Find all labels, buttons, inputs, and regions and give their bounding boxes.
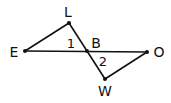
angle-1-label: 1 bbox=[67, 36, 75, 51]
point-E bbox=[23, 49, 27, 53]
point-L bbox=[67, 21, 71, 25]
angle-2-label: 2 bbox=[99, 54, 107, 69]
point-B bbox=[85, 49, 89, 53]
label-L: L bbox=[64, 4, 72, 20]
segment-OW bbox=[105, 52, 147, 79]
point-W bbox=[103, 77, 107, 81]
label-O: O bbox=[153, 44, 164, 60]
label-B: B bbox=[91, 35, 101, 51]
segment-EL bbox=[25, 23, 69, 51]
point-O bbox=[145, 50, 149, 54]
label-E: E bbox=[10, 44, 19, 60]
label-W: W bbox=[98, 83, 112, 99]
geometry-diagram: L E B O W 1 2 bbox=[0, 0, 171, 103]
